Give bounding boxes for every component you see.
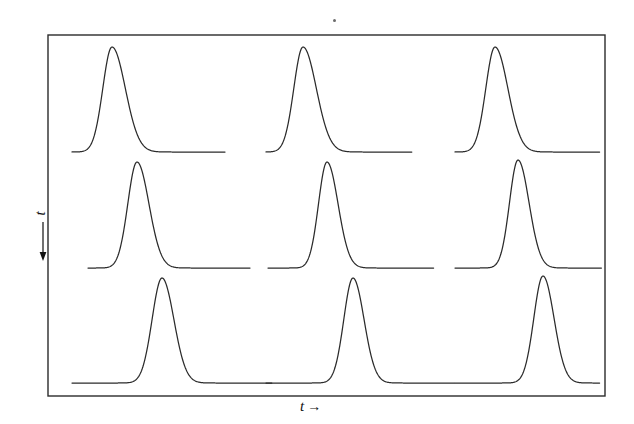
pulse-propagation-figure: t→ t <box>0 0 634 424</box>
ink-speck-mark <box>333 19 336 22</box>
pulse-trace-group <box>72 47 601 383</box>
plot-canvas <box>0 0 634 424</box>
pulse-r2c2 <box>268 162 434 268</box>
x-axis-label: t→ <box>300 398 321 415</box>
pulse-r3c2 <box>266 278 454 383</box>
pulse-r1c3 <box>455 47 600 152</box>
y-axis-arrow-icon <box>36 218 50 262</box>
x-axis-arrow-icon: → <box>304 399 321 414</box>
pulse-r3c3 <box>455 276 600 383</box>
pulse-r2c3 <box>455 160 601 268</box>
pulse-r1c2 <box>266 47 412 152</box>
plot-frame <box>48 35 605 396</box>
pulse-r3c1 <box>72 278 272 383</box>
pulse-r2c1 <box>88 162 250 268</box>
pulse-r1c1 <box>72 47 225 152</box>
